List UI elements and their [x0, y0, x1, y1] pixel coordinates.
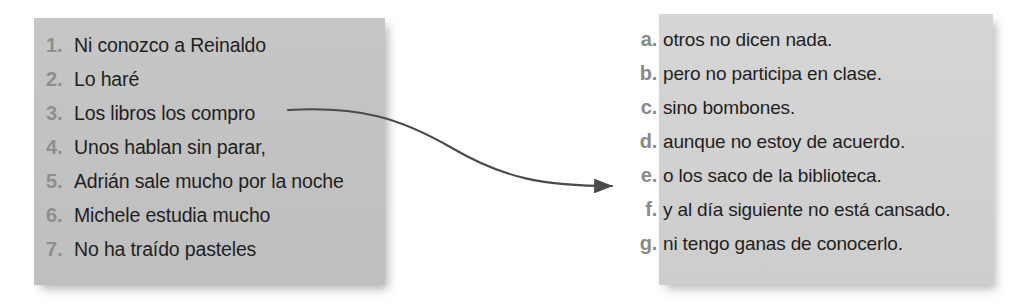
right-list-item[interactable]: c. sino bombones.	[626, 90, 1006, 124]
matching-exercise-canvas: 1. Ni conozco a Reinaldo 2. Lo haré 3. L…	[0, 0, 1019, 306]
list-marker: d.	[626, 124, 657, 158]
list-item-text: aunque no estoy de acuerdo.	[663, 125, 905, 159]
left-list-item[interactable]: 5. Adrián sale mucho por la noche	[46, 164, 385, 198]
list-item-text: Lo haré	[74, 62, 139, 96]
list-marker: 5.	[46, 164, 72, 198]
list-item-text: y al día siguiente no está cansado.	[663, 193, 950, 227]
right-list-item[interactable]: g. ni tengo ganas de conocerlo.	[626, 226, 1006, 260]
list-marker: 6.	[46, 198, 72, 232]
list-marker: 3.	[46, 96, 72, 130]
list-item-text: ni tengo ganas de conocerlo.	[663, 227, 903, 261]
left-list-item[interactable]: 1. Ni conozco a Reinaldo	[46, 28, 385, 62]
left-list-item[interactable]: 6. Michele estudia mucho	[46, 198, 385, 232]
list-item-text: otros no dicen nada.	[663, 23, 832, 57]
right-list-item[interactable]: e. o los saco de la biblioteca.	[626, 158, 1006, 192]
list-marker: c.	[626, 90, 657, 124]
list-marker: 4.	[46, 130, 72, 164]
list-item-text: o los saco de la biblioteca.	[663, 159, 882, 193]
list-marker: a.	[626, 22, 657, 56]
list-item-text: Unos hablan sin parar,	[74, 130, 266, 164]
list-marker: 2.	[46, 62, 72, 96]
left-list-item[interactable]: 3. Los libros los compro	[46, 96, 385, 130]
list-marker: 1.	[46, 28, 72, 62]
right-list-item[interactable]: d. aunque no estoy de acuerdo.	[626, 124, 1006, 158]
left-clause-panel: 1. Ni conozco a Reinaldo 2. Lo haré 3. L…	[34, 18, 385, 285]
left-clause-list: 1. Ni conozco a Reinaldo 2. Lo haré 3. L…	[46, 28, 385, 266]
list-marker: b.	[626, 56, 657, 90]
list-item-text: Adrián sale mucho por la noche	[74, 164, 344, 198]
right-list-item[interactable]: a. otros no dicen nada.	[626, 22, 1006, 56]
list-item-text: Los libros los compro	[74, 96, 255, 130]
right-list-item[interactable]: f. y al día siguiente no está cansado.	[626, 192, 1006, 226]
left-list-item[interactable]: 7. No ha traído pasteles	[46, 232, 385, 266]
list-item-text: sino bombones.	[663, 91, 795, 125]
right-list-item[interactable]: b. pero no participa en clase.	[626, 56, 1006, 90]
list-item-text: pero no participa en clase.	[663, 57, 882, 91]
list-item-text: Michele estudia mucho	[74, 198, 270, 232]
list-marker: e.	[626, 158, 657, 192]
list-marker: g.	[626, 226, 657, 260]
list-marker: f.	[626, 192, 657, 226]
right-clause-list: a. otros no dicen nada. b. pero no parti…	[626, 22, 1006, 260]
list-item-text: Ni conozco a Reinaldo	[74, 28, 266, 62]
left-list-item[interactable]: 4. Unos hablan sin parar,	[46, 130, 385, 164]
left-list-item[interactable]: 2. Lo haré	[46, 62, 385, 96]
list-item-text: No ha traído pasteles	[74, 232, 256, 266]
list-marker: 7.	[46, 232, 72, 266]
